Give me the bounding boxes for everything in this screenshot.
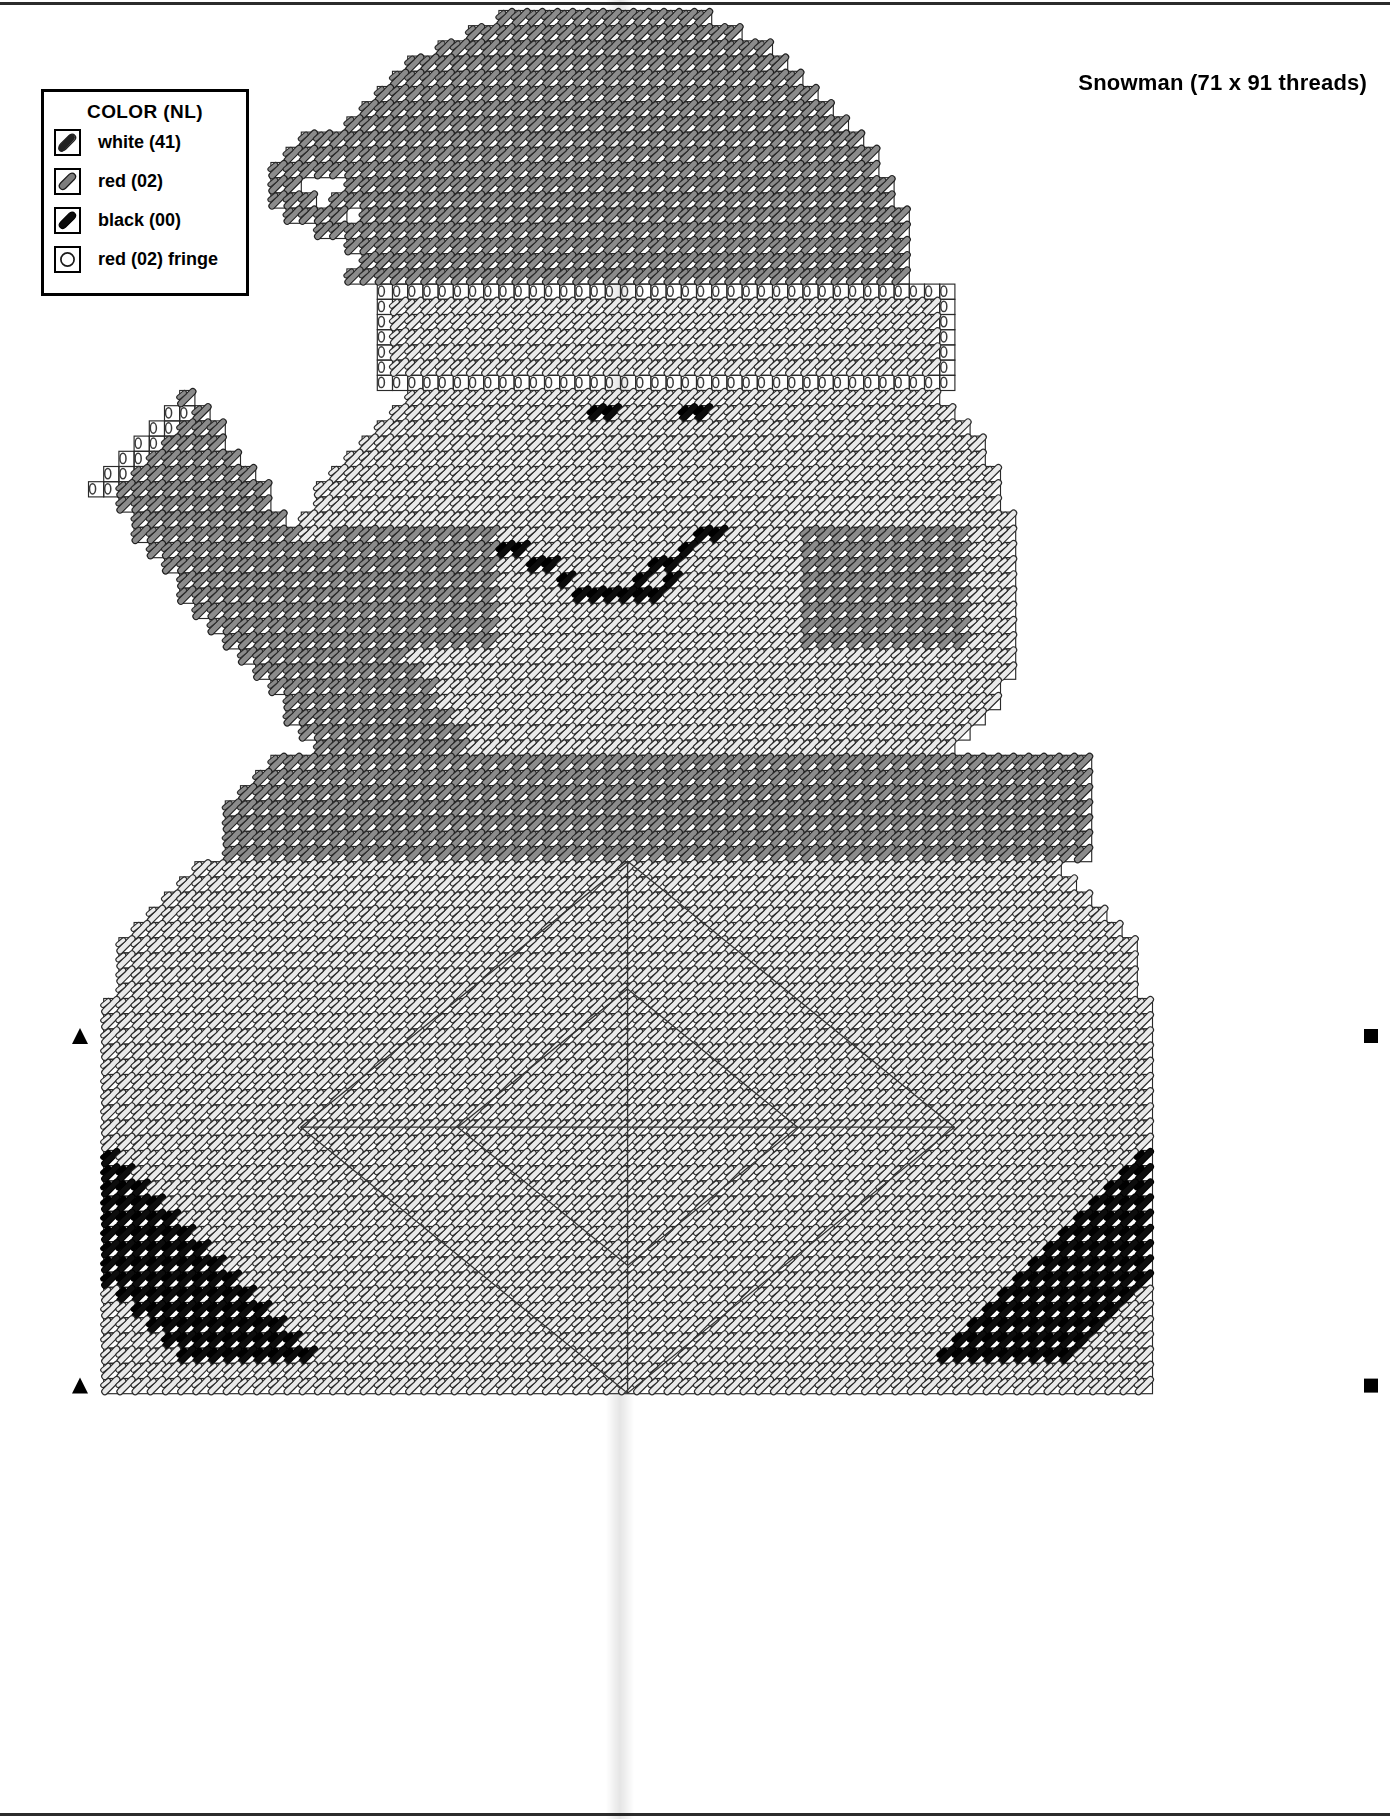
legend-row-red[interactable]: red (02) — [44, 162, 246, 201]
chart-page: COLOR (NL) white (41) — [0, 0, 1390, 1819]
diagonal-stitch-black-icon — [54, 207, 81, 234]
fringe-circle-icon — [54, 246, 81, 273]
legend-label-fringe: red (02) fringe — [98, 249, 218, 270]
diagonal-stitch-red-icon — [54, 168, 81, 195]
diagonal-stitch-white-icon — [54, 129, 81, 156]
legend-row-fringe[interactable]: red (02) fringe — [44, 240, 246, 279]
legend-label-black: black (00) — [98, 210, 181, 231]
legend-label-white: white (41) — [98, 132, 181, 153]
legend-row-black[interactable]: black (00) — [44, 201, 246, 240]
color-legend: COLOR (NL) white (41) — [41, 89, 249, 296]
legend-row-white[interactable]: white (41) — [44, 123, 246, 162]
legend-heading: COLOR (NL) — [44, 101, 246, 123]
legend-label-red: red (02) — [98, 171, 163, 192]
page-title: Snowman (71 x 91 threads) — [1078, 70, 1367, 96]
